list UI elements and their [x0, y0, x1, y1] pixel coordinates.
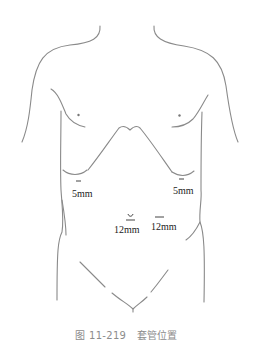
right-nipple	[178, 114, 180, 116]
right-torso-side	[200, 112, 205, 302]
right-inguinal-line	[151, 270, 168, 292]
right-pectoral-outline	[172, 95, 208, 127]
port-label-umbilical-12mm: 12mm	[114, 224, 140, 235]
right-flank-line	[186, 222, 200, 240]
costal-margin	[88, 127, 172, 172]
right-neck-shoulder-outline	[154, 26, 238, 142]
right-subcostal-curve	[172, 171, 194, 175]
left-pectoral-outline	[51, 89, 85, 127]
right-inguinal-lower	[133, 297, 147, 312]
left-inguinal-lower	[112, 293, 133, 309]
left-inguinal-line	[80, 262, 105, 287]
port-label-right-12mm: 12mm	[151, 221, 177, 232]
umbilicus-icon	[128, 214, 133, 216]
figure-caption: 图 11-219 套管位置	[0, 327, 253, 341]
torso-diagram	[0, 0, 253, 341]
port-label-left-5mm: 5mm	[72, 188, 93, 199]
port-label-right-5mm: 5mm	[173, 185, 194, 196]
left-torso-side	[57, 111, 63, 300]
left-nipple	[77, 114, 79, 116]
left-subcostal-curve	[63, 170, 87, 175]
